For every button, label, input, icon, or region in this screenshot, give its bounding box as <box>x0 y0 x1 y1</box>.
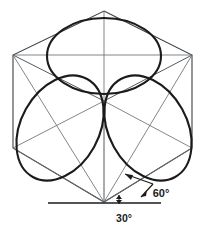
isometric-cube-figure: 60° 30° <box>0 0 204 229</box>
isometric-drawing-canvas: 60° 30° <box>0 0 204 229</box>
angle-30-arrowhead-up <box>116 195 122 199</box>
diagonal-right-face-minor <box>104 101 192 148</box>
inscribed-ellipses <box>0 18 204 196</box>
angle-60-arrowhead-upper <box>125 174 133 180</box>
angle-30-label: 30° <box>116 212 132 224</box>
angle-60-label: 60° <box>153 187 170 199</box>
diagonal-left-face-major <box>13 55 104 202</box>
diagonal-left-lower-edge <box>13 148 104 202</box>
